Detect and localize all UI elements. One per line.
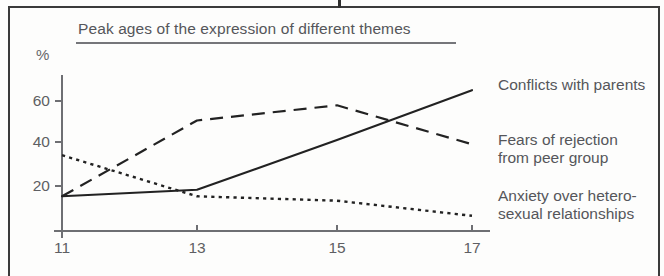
legend-label-fears-of-rejection: Fears of rejection from peer group bbox=[498, 131, 618, 167]
series-line-conflicts-with-parents bbox=[62, 90, 472, 196]
chart-plot-area: % 20 40 60 11 13 15 17 Conflicts with pa… bbox=[0, 0, 664, 276]
legend-label-anxiety-heterosexual: Anxiety over hetero- sexual relationship… bbox=[498, 187, 637, 223]
series-line-fears-of-rejection bbox=[62, 105, 472, 196]
legend-label-conflicts-with-parents: Conflicts with parents bbox=[498, 76, 645, 94]
figure-page: Peak ages of the expression of different… bbox=[0, 0, 664, 276]
